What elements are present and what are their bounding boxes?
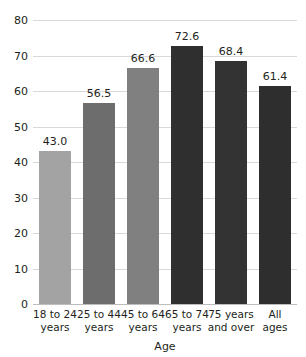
bar-item: 68.4 [215,20,247,304]
bar [83,103,115,304]
y-axis-tick-label: 0 [0,299,28,310]
bar-item: 66.6 [127,20,159,304]
bar-value-label: 43.0 [30,136,80,147]
y-axis-tick-label: 50 [0,122,28,133]
bars-group: 43.056.566.672.668.461.4 [33,20,297,304]
x-axis-category-label: Allages [249,308,301,334]
y-axis-tick-label: 80 [0,15,28,26]
bar-item: 72.6 [171,20,203,304]
bar-value-label: 66.6 [118,53,168,64]
bar-value-label: 61.4 [250,71,300,82]
y-axis-tick-label: 30 [0,193,28,204]
bar-value-label: 56.5 [74,88,124,99]
bar-value-label: 72.6 [162,31,212,42]
x-axis-category-line: All [249,308,301,321]
y-axis-tick-label: 40 [0,157,28,168]
bar-item: 56.5 [83,20,115,304]
y-axis-tick-label: 10 [0,264,28,275]
bar-chart: 01020304050607080 43.056.566.672.668.461… [0,0,306,357]
x-axis-labels: 18 to 24years25 to 44years45 to 64years6… [33,308,297,342]
x-axis-title: Age [33,340,297,353]
bar-item: 61.4 [259,20,291,304]
bar [259,86,291,304]
y-axis-tick-label: 70 [0,51,28,62]
bar-item: 43.0 [39,20,71,304]
axis-baseline [33,304,297,305]
y-axis-tick-label: 20 [0,228,28,239]
bar [215,61,247,304]
y-axis-tick-label: 60 [0,86,28,97]
y-axis-labels: 01020304050607080 [0,20,28,304]
bar [127,68,159,304]
bar [171,46,203,304]
bar [39,151,71,304]
bar-value-label: 68.4 [206,46,256,57]
x-axis-category-line: ages [249,321,301,334]
